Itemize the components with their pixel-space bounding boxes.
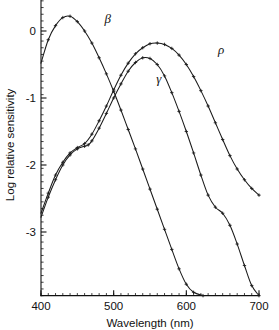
x-tick-label: 400 bbox=[31, 300, 50, 312]
curve-gamma bbox=[41, 57, 259, 295]
marker-beta bbox=[68, 15, 71, 18]
marker-beta bbox=[105, 72, 108, 75]
marker-rho bbox=[214, 121, 217, 124]
marker-rho bbox=[156, 41, 159, 44]
curve-label-gamma: γ bbox=[156, 71, 162, 86]
y-axis-title: Log relative sensitivity bbox=[4, 88, 16, 201]
y-axis-tick-labels: 0-1-2-3 bbox=[26, 25, 36, 238]
marker-rho bbox=[105, 104, 108, 107]
marker-beta bbox=[201, 294, 204, 297]
marker-gamma bbox=[170, 91, 173, 94]
y-tick-label: 0 bbox=[30, 25, 36, 37]
marker-beta bbox=[177, 267, 180, 270]
y-tick-label: -1 bbox=[26, 92, 36, 104]
marker-rho bbox=[206, 104, 209, 107]
marker-gamma bbox=[206, 193, 209, 196]
marker-gamma bbox=[177, 110, 180, 113]
figure-container: 400500600700 0-1-2-3 βγρ Wavelength (nm)… bbox=[0, 0, 279, 330]
marker-beta bbox=[47, 38, 50, 41]
marker-beta bbox=[127, 128, 130, 131]
x-axis-tick-labels: 400500600700 bbox=[31, 300, 268, 312]
y-tick-label: -3 bbox=[26, 226, 36, 238]
marker-rho bbox=[228, 154, 231, 157]
marker-gamma bbox=[228, 224, 231, 227]
marker-beta bbox=[134, 147, 137, 150]
marker-beta bbox=[141, 167, 144, 170]
x-tick-label: 700 bbox=[249, 300, 268, 312]
marker-gamma bbox=[112, 96, 115, 99]
marker-beta bbox=[156, 208, 159, 211]
x-tick-label: 600 bbox=[177, 300, 196, 312]
marker-rho bbox=[199, 89, 202, 92]
marker-beta bbox=[170, 248, 173, 251]
x-axis-title: Wavelength (nm) bbox=[106, 317, 193, 329]
marker-beta bbox=[97, 56, 100, 59]
marker-gamma bbox=[199, 173, 202, 176]
marker-gamma bbox=[192, 151, 195, 154]
marker-gamma bbox=[141, 56, 144, 59]
marker-gamma bbox=[105, 112, 108, 115]
marker-rho bbox=[221, 138, 224, 141]
marker-gamma bbox=[185, 130, 188, 133]
marker-gamma bbox=[243, 264, 246, 267]
marker-beta bbox=[148, 187, 151, 190]
marker-rho bbox=[163, 43, 166, 46]
marker-rho bbox=[148, 42, 151, 45]
marker-beta bbox=[163, 228, 166, 231]
curve-beta bbox=[41, 16, 203, 296]
y-tick-label: -2 bbox=[26, 159, 36, 171]
spectral-sensitivity-chart: 400500600700 0-1-2-3 βγρ Wavelength (nm)… bbox=[0, 0, 279, 330]
x-tick-label: 500 bbox=[104, 300, 123, 312]
marker-gamma bbox=[236, 242, 239, 245]
curve-label-beta: β bbox=[104, 11, 112, 26]
data-point-markers bbox=[47, 15, 261, 298]
marker-beta bbox=[119, 108, 122, 111]
curve-label-rho: ρ bbox=[217, 42, 224, 57]
